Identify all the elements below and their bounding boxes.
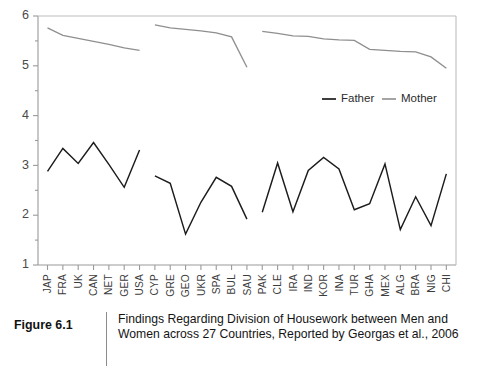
series-line-father [155,176,247,234]
chart-legend: FatherMother [322,92,437,104]
figure-caption: Figure 6.1 Findings Regarding Division o… [14,312,466,370]
x-tick-label: GEO [180,274,191,297]
x-tick-label: CHI [441,274,452,292]
figure-number: Figure 6.1 [14,312,106,332]
y-tick-label: 2 [22,207,29,221]
series-line-mother [48,28,140,50]
x-tick-label: IND [303,274,314,292]
x-tick-label: BRA [410,274,421,296]
caption-text: Findings Regarding Division of Housework… [118,312,466,341]
y-tick-label: 5 [22,58,29,72]
y-tick-label: 6 [22,8,29,22]
series-line-father [48,142,140,187]
x-tick-label: BUL [226,274,237,295]
caption-divider [106,312,107,366]
legend-label-father: Father [341,92,374,104]
x-tick-label: JAP [42,274,53,293]
x-tick-label: UKR [196,274,207,296]
x-tick-label: ALG [395,274,406,295]
y-tick-label: 3 [22,158,29,172]
line-chart-svg: 654321 JAPFRAUKCANNETGERUSACYPGREGEOUKRS… [0,0,478,300]
series-line-mother [155,25,247,67]
x-tick-label: KOR [318,274,329,297]
y-axis-ticks: 654321 [22,8,38,271]
x-tick-label: SAU [242,274,253,296]
x-tick-label: MEX [380,274,391,297]
x-tick-label: NIG [426,274,437,293]
x-tick-label: SPA [211,274,222,294]
x-tick-label: FRA [57,274,68,295]
x-tick-label: PAK [257,274,268,294]
x-tick-label: UK [73,274,84,289]
y-tick-label: 4 [22,108,29,122]
axis-frame [38,16,456,265]
legend-label-mother: Mother [401,92,437,104]
x-axis-ticks: JAPFRAUKCANNETGERUSACYPGREGEOUKRSPABULSA… [42,265,452,297]
x-tick-label: IRA [288,274,299,292]
x-tick-label: TUR [349,274,360,296]
x-tick-label: CAN [88,274,99,296]
x-tick-label: INA [334,274,345,292]
series-line-father [262,157,446,229]
chart-plot-area: 654321 JAPFRAUKCANNETGERUSACYPGREGEOUKRS… [0,0,478,300]
series-line-mother [262,31,446,68]
x-tick-label: CYP [149,274,160,296]
figure-container: 654321 JAPFRAUKCANNETGERUSACYPGREGEOUKRS… [0,0,478,373]
y-tick-label: 1 [22,257,29,271]
x-tick-label: GHA [364,274,375,297]
x-tick-label: GRE [165,274,176,297]
data-series-group [48,25,447,234]
x-tick-label: NET [103,274,114,295]
x-tick-label: CLE [272,274,283,294]
x-tick-label: GER [119,274,130,297]
x-tick-label: USA [134,274,145,296]
